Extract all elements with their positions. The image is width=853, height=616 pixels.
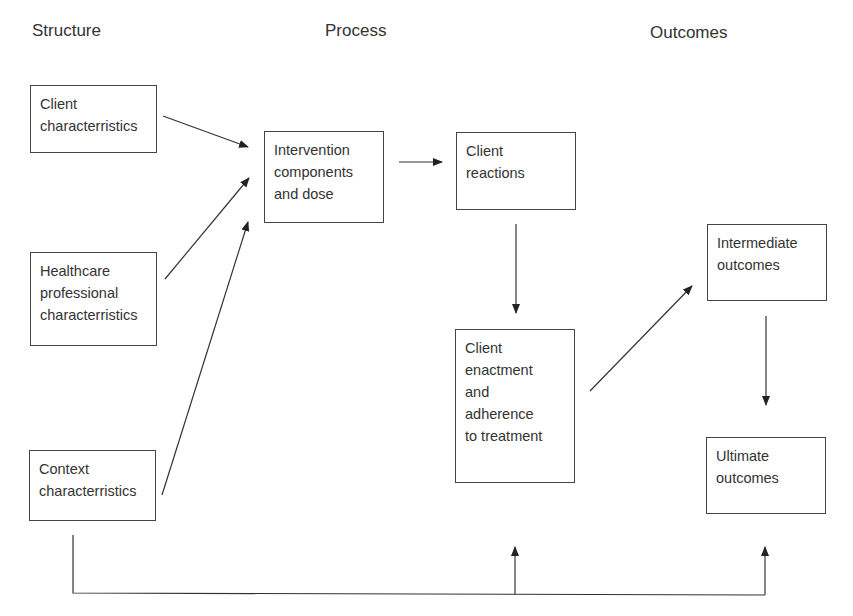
arrow-healthcare-to-intervention <box>165 178 249 279</box>
feedback-line <box>73 535 765 595</box>
node-client-enactment: Client enactment and adherence to treatm… <box>455 329 575 483</box>
node-client-characteristics: Client characterristics <box>30 85 157 153</box>
node-label: Client reactions <box>466 140 575 184</box>
node-label: Intervention components and dose <box>274 139 383 205</box>
node-context-characteristics: Context characterristics <box>29 450 156 521</box>
arrow-client-to-intervention <box>163 116 248 147</box>
node-healthcare-professional: Healthcare professional characterristics <box>30 252 157 346</box>
node-label: Healthcare professional characterristics <box>40 260 156 326</box>
node-intermediate-outcomes: Intermediate outcomes <box>707 224 827 301</box>
node-label: Ultimate outcomes <box>716 445 825 489</box>
node-ultimate-outcomes: Ultimate outcomes <box>706 437 826 514</box>
node-client-reactions: Client reactions <box>456 132 576 210</box>
arrow-enactment-to-intermediate <box>590 286 692 391</box>
node-label: Client enactment and adherence to treatm… <box>465 337 574 447</box>
arrow-context-to-intervention <box>162 222 248 495</box>
node-label: Client characterristics <box>40 93 156 137</box>
node-label: Intermediate outcomes <box>717 232 826 276</box>
node-label: Context characterristics <box>39 458 155 502</box>
node-intervention: Intervention components and dose <box>264 131 384 223</box>
